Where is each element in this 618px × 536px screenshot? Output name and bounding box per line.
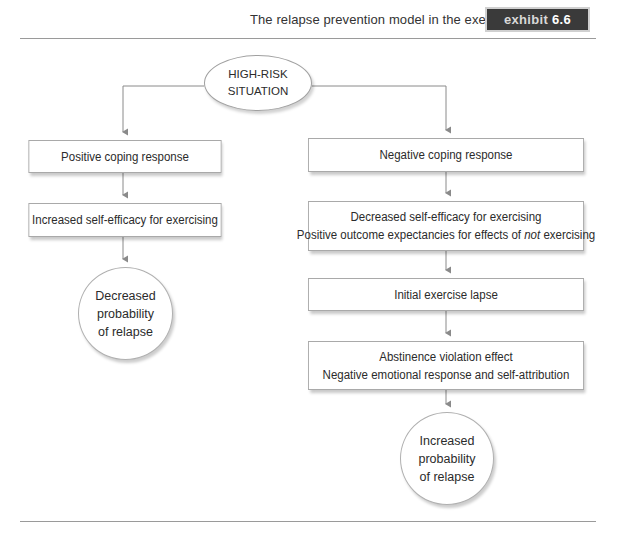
node-label: Positive coping response	[61, 148, 189, 166]
outcome-line3: of relapse	[420, 468, 475, 486]
node-decreased-self-efficacy: Decreased self-efficacy for exercising P…	[308, 201, 584, 251]
node-initial-lapse: Initial exercise lapse	[308, 278, 584, 311]
node-label-line2: Positive outcome expectancies for effect…	[297, 226, 595, 244]
node-label: Increased self-efficacy for exercising	[32, 211, 218, 229]
node-decreased-probability: Decreased probability of relapse	[78, 267, 173, 360]
node-positive-coping: Positive coping response	[28, 140, 221, 173]
line2-before: Positive outcome expectancies for effect…	[297, 228, 524, 242]
outcome-line3: of relapse	[98, 323, 153, 341]
node-label: Negative coping response	[380, 146, 513, 164]
root-line2: SITUATION	[228, 83, 288, 100]
node-negative-coping: Negative coping response	[308, 138, 584, 172]
node-label-line1: Abstinence violation effect	[379, 348, 512, 366]
node-label: Initial exercise lapse	[394, 286, 498, 304]
line2-after: exercising	[540, 228, 595, 242]
arrow-root-right	[312, 86, 446, 130]
arrow-root-left	[123, 86, 204, 132]
outcome-line1: Increased	[420, 432, 475, 450]
outcome-line1: Decreased	[95, 287, 155, 305]
node-increased-self-efficacy: Increased self-efficacy for exercising	[28, 203, 221, 237]
outcome-line2: probability	[419, 450, 476, 468]
node-label-line2: Negative emotional response and self-att…	[323, 366, 570, 384]
node-increased-probability: Increased probability of relapse	[400, 412, 494, 505]
node-high-risk-situation: HIGH-RISK SITUATION	[204, 55, 312, 111]
line2-emphasis: not	[524, 228, 540, 242]
root-line1: HIGH-RISK	[228, 66, 287, 83]
node-label-line1: Decreased self-efficacy for exercising	[351, 208, 542, 226]
outcome-line2: probability	[97, 305, 154, 323]
node-abstinence-violation: Abstinence violation effect Negative emo…	[308, 341, 584, 390]
